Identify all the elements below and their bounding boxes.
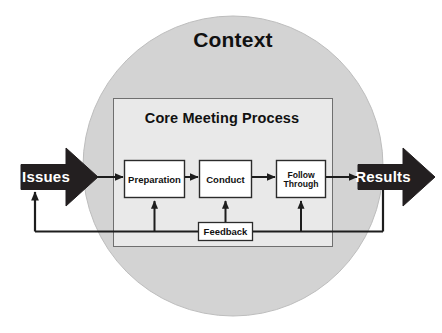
core-meeting-process-diagram: Context Core Meeting Process Issues Resu…: [0, 0, 442, 333]
diagram-canvas: Context Core Meeting Process Issues Resu…: [0, 0, 442, 333]
step-box-preparation: Preparation: [125, 161, 185, 198]
step-box-follow-through: Follow Through: [277, 161, 326, 198]
results-label: Results: [355, 168, 411, 185]
step-label-conduct: Conduct: [206, 174, 245, 185]
issues-label: Issues: [22, 168, 70, 185]
feedback-box: Feedback: [199, 223, 253, 241]
step-label-follow-through-line2: Through: [284, 179, 319, 189]
core-meeting-process-title: Core Meeting Process: [145, 110, 299, 126]
feedback-label: Feedback: [204, 226, 249, 237]
step-label-follow-through-line1: Follow: [287, 170, 315, 180]
step-box-conduct: Conduct: [200, 161, 252, 198]
step-label-preparation: Preparation: [128, 174, 181, 185]
context-title: Context: [193, 28, 273, 51]
